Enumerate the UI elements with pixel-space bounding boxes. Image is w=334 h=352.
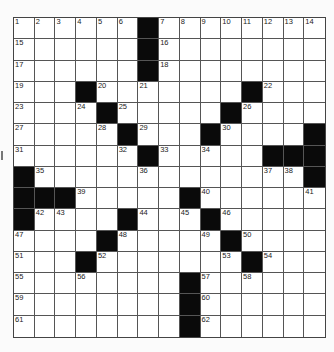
grid-cell[interactable] [221, 316, 242, 337]
grid-cell[interactable] [304, 252, 325, 273]
grid-cell[interactable] [159, 231, 180, 252]
grid-cell[interactable]: 15 [14, 39, 35, 60]
grid-cell[interactable] [263, 209, 284, 230]
grid-cell[interactable] [284, 273, 305, 294]
grid-cell[interactable] [97, 209, 118, 230]
grid-cell[interactable] [76, 316, 97, 337]
grid-cell[interactable] [304, 39, 325, 60]
grid-cell[interactable] [284, 39, 305, 60]
grid-cell[interactable] [76, 146, 97, 167]
grid-cell[interactable]: 60 [201, 294, 222, 315]
grid-cell[interactable]: 30 [221, 124, 242, 145]
grid-cell[interactable] [180, 39, 201, 60]
grid-cell[interactable]: 51 [14, 252, 35, 273]
grid-cell[interactable]: 10 [221, 18, 242, 39]
grid-cell[interactable]: 21 [138, 82, 159, 103]
grid-cell[interactable] [284, 103, 305, 124]
grid-cell[interactable] [55, 61, 76, 82]
grid-cell[interactable] [118, 188, 139, 209]
grid-cell[interactable] [35, 146, 56, 167]
grid-cell[interactable] [263, 39, 284, 60]
grid-cell[interactable] [201, 82, 222, 103]
grid-cell[interactable] [221, 61, 242, 82]
grid-cell[interactable] [159, 82, 180, 103]
grid-cell[interactable] [76, 61, 97, 82]
grid-cell[interactable] [180, 61, 201, 82]
grid-cell[interactable] [55, 231, 76, 252]
grid-cell[interactable] [201, 39, 222, 60]
grid-cell[interactable]: 48 [118, 231, 139, 252]
grid-cell[interactable] [35, 39, 56, 60]
grid-cell[interactable] [118, 82, 139, 103]
grid-cell[interactable] [138, 316, 159, 337]
grid-cell[interactable]: 53 [221, 252, 242, 273]
grid-cell[interactable]: 46 [221, 209, 242, 230]
grid-cell[interactable]: 7 [159, 18, 180, 39]
grid-cell[interactable] [97, 146, 118, 167]
grid-cell[interactable]: 41 [304, 188, 325, 209]
grid-cell[interactable] [284, 61, 305, 82]
grid-cell[interactable] [304, 294, 325, 315]
grid-cell[interactable]: 14 [304, 18, 325, 39]
grid-cell[interactable] [159, 294, 180, 315]
grid-cell[interactable]: 1 [14, 18, 35, 39]
grid-cell[interactable] [221, 82, 242, 103]
grid-cell[interactable]: 9 [201, 18, 222, 39]
grid-cell[interactable] [159, 273, 180, 294]
grid-cell[interactable] [118, 61, 139, 82]
grid-cell[interactable]: 6 [118, 18, 139, 39]
grid-cell[interactable] [242, 39, 263, 60]
grid-cell[interactable]: 40 [201, 188, 222, 209]
grid-cell[interactable]: 27 [14, 124, 35, 145]
grid-cell[interactable] [97, 167, 118, 188]
grid-cell[interactable] [284, 209, 305, 230]
grid-cell[interactable] [159, 209, 180, 230]
grid-cell[interactable]: 57 [201, 273, 222, 294]
grid-cell[interactable] [35, 294, 56, 315]
grid-cell[interactable] [97, 273, 118, 294]
grid-cell[interactable] [97, 294, 118, 315]
grid-cell[interactable] [304, 273, 325, 294]
grid-cell[interactable] [263, 188, 284, 209]
grid-cell[interactable] [284, 188, 305, 209]
grid-cell[interactable] [76, 167, 97, 188]
grid-cell[interactable]: 28 [97, 124, 118, 145]
grid-cell[interactable]: 44 [138, 209, 159, 230]
grid-cell[interactable]: 26 [242, 103, 263, 124]
grid-cell[interactable] [35, 61, 56, 82]
grid-cell[interactable]: 20 [97, 82, 118, 103]
grid-cell[interactable]: 54 [263, 252, 284, 273]
grid-cell[interactable] [221, 39, 242, 60]
grid-cell[interactable] [242, 124, 263, 145]
grid-cell[interactable]: 59 [14, 294, 35, 315]
grid-cell[interactable]: 43 [55, 209, 76, 230]
grid-cell[interactable] [35, 316, 56, 337]
grid-cell[interactable] [35, 124, 56, 145]
grid-cell[interactable] [221, 146, 242, 167]
grid-cell[interactable]: 35 [35, 167, 56, 188]
grid-cell[interactable] [138, 294, 159, 315]
grid-cell[interactable]: 17 [14, 61, 35, 82]
grid-cell[interactable] [55, 252, 76, 273]
grid-cell[interactable]: 18 [159, 61, 180, 82]
grid-cell[interactable] [35, 103, 56, 124]
grid-cell[interactable] [55, 39, 76, 60]
grid-cell[interactable]: 50 [242, 231, 263, 252]
grid-cell[interactable] [118, 316, 139, 337]
grid-cell[interactable]: 4 [76, 18, 97, 39]
grid-cell[interactable] [201, 103, 222, 124]
grid-cell[interactable] [35, 273, 56, 294]
grid-cell[interactable] [55, 146, 76, 167]
grid-cell[interactable] [221, 273, 242, 294]
grid-cell[interactable]: 8 [180, 18, 201, 39]
grid-cell[interactable] [304, 209, 325, 230]
grid-cell[interactable]: 38 [284, 167, 305, 188]
grid-cell[interactable] [118, 294, 139, 315]
grid-cell[interactable] [284, 316, 305, 337]
grid-cell[interactable] [138, 231, 159, 252]
grid-cell[interactable] [284, 82, 305, 103]
grid-cell[interactable] [180, 103, 201, 124]
grid-cell[interactable]: 24 [76, 103, 97, 124]
grid-cell[interactable] [97, 39, 118, 60]
grid-cell[interactable] [76, 209, 97, 230]
